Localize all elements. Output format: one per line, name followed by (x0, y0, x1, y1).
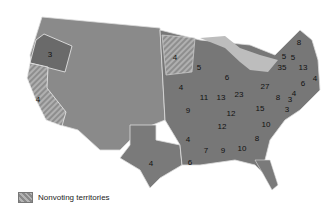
state-label: 7 (204, 147, 208, 155)
state-label: 6 (225, 74, 229, 82)
hatch-swatch-icon (18, 192, 33, 203)
us-map (0, 0, 333, 217)
state-label: 8 (255, 135, 259, 143)
state-label: 15 (256, 105, 265, 113)
state-label: 5 (197, 64, 201, 72)
state-label: 8 (276, 94, 280, 102)
state-label: 4 (179, 84, 183, 92)
state-label: 9 (221, 147, 225, 155)
state-label: 23 (235, 91, 244, 99)
state-label: 13 (217, 94, 226, 102)
state-label: 3 (285, 106, 289, 114)
state-label: 12 (227, 110, 236, 118)
state-label: 35 (278, 64, 287, 72)
legend-label: Nonvoting territories (38, 193, 110, 202)
state-label: 6 (301, 80, 305, 88)
state-label: 4 (36, 96, 40, 104)
state-label: 4 (186, 136, 190, 144)
florida (255, 160, 278, 190)
state-label: 10 (238, 145, 247, 153)
state-label: 5 (282, 53, 286, 61)
minnesota (162, 35, 195, 75)
state-label: 6 (188, 159, 192, 167)
state-label: 4 (292, 90, 296, 98)
state-label: 11 (200, 94, 208, 102)
state-label: 4 (313, 75, 317, 83)
state-label: 3 (48, 51, 52, 59)
state-label: 9 (186, 107, 190, 115)
state-label: 10 (262, 121, 271, 129)
state-label: 3 (288, 96, 292, 104)
state-label: 4 (173, 54, 177, 62)
state-label: 4 (149, 160, 153, 168)
legend: Nonvoting territories (18, 192, 110, 203)
state-label: 12 (218, 123, 227, 131)
state-label: 13 (299, 64, 308, 72)
state-label: 5 (291, 54, 295, 62)
state-label: 27 (261, 83, 270, 91)
state-label: 8 (297, 39, 301, 47)
